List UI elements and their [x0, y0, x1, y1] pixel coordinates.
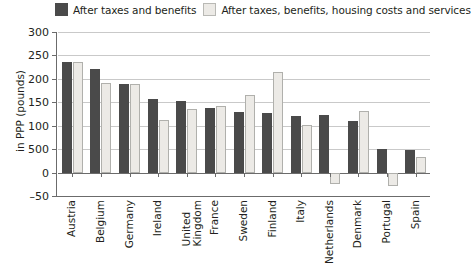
legend-label-2: After taxes, benefits, housing costs and…: [221, 4, 470, 16]
y-tick-label-0: 0: [42, 166, 49, 179]
bar-portugal-series-1: [377, 149, 387, 173]
x-axis-label-italy: Italy: [295, 200, 306, 223]
bar-austria-series-1: [62, 62, 72, 173]
x-axis-label-france: France: [209, 200, 220, 235]
gridline-300: [58, 32, 430, 33]
bar-sweden-series-1: [234, 112, 244, 172]
bar-sweden-series-2: [245, 95, 255, 172]
bar-ireland-series-1: [148, 99, 158, 173]
bar-belgium-series-2: [101, 83, 111, 173]
bar-belgium-series-1: [90, 69, 100, 172]
bar-italy-series-1: [291, 116, 301, 172]
y-tick-label-200: 200: [28, 72, 49, 85]
y-tick-label--50: –50: [30, 190, 50, 203]
bar-finland-series-2: [273, 72, 283, 173]
y-tick-mark--50: [52, 196, 57, 197]
x-axis-label-sweden: Sweden: [238, 200, 249, 242]
legend-item-after-taxes-benefits-housing: After taxes, benefits, housing costs and…: [203, 3, 470, 16]
y-tick-label-300: 300: [28, 26, 49, 39]
plot-area: 3002502001501005000–50: [58, 32, 430, 196]
bar-denmark-series-1: [348, 121, 358, 173]
x-axis-labels: AustriaBelgiumGermanyIrelandUnited Kingd…: [58, 200, 430, 273]
x-axis-label-united-kingdom: United Kingdom: [181, 200, 202, 246]
y-tick-mark-150: [52, 102, 57, 103]
y-tick-mark-300: [52, 32, 57, 33]
y-tick-label-250: 250: [28, 49, 49, 62]
x-axis-label-netherlands: Netherlands: [324, 200, 335, 264]
legend-swatch-dark-icon: [55, 3, 68, 16]
y-axis-title: in PPP (pounds): [14, 46, 26, 176]
y-tick-mark-200: [52, 79, 57, 80]
legend-swatch-light-icon: [203, 3, 216, 16]
x-axis-label-germany: Germany: [124, 200, 135, 248]
gridline-200: [58, 79, 430, 80]
x-tick-mark-10: [358, 173, 359, 177]
x-tick-mark-3: [158, 173, 159, 177]
y-tick-mark-0: [52, 173, 57, 174]
legend-label-1: After taxes and benefits: [73, 4, 196, 16]
x-tick-mark-4: [187, 173, 188, 177]
bar-portugal-series-2: [388, 173, 398, 186]
x-tick-mark-8: [301, 173, 302, 177]
x-tick-mark-1: [101, 173, 102, 177]
x-axis-label-belgium: Belgium: [95, 200, 106, 243]
y-tick-label-100: 100: [28, 119, 49, 132]
bar-netherlands-series-2: [330, 173, 340, 184]
y-tick-mark-100: [52, 126, 57, 127]
gridline-250: [58, 55, 430, 56]
x-axis-label-portugal: Portugal: [381, 200, 392, 244]
bar-germany-series-2: [130, 84, 140, 172]
bar-spain-series-2: [416, 157, 426, 173]
y-tick-mark-50: [52, 149, 57, 150]
bar-germany-series-1: [119, 84, 129, 172]
gridline--50: [56, 196, 430, 197]
bar-netherlands-series-1: [319, 115, 329, 173]
bar-finland-series-1: [262, 113, 272, 173]
x-axis-label-denmark: Denmark: [352, 200, 363, 248]
bar-ireland-series-2: [159, 120, 169, 172]
x-axis-label-austria: Austria: [66, 200, 77, 237]
y-tick-mark-250: [52, 55, 57, 56]
bar-france-series-2: [216, 106, 226, 173]
bar-united-kingdom-series-1: [176, 101, 186, 173]
x-tick-mark-2: [130, 173, 131, 177]
bar-france-series-1: [205, 108, 215, 173]
bar-spain-series-1: [405, 150, 415, 172]
bar-denmark-series-2: [359, 111, 369, 172]
bar-italy-series-2: [302, 125, 312, 172]
x-tick-mark-5: [215, 173, 216, 177]
x-tick-mark-7: [273, 173, 274, 177]
x-tick-mark-0: [72, 173, 73, 177]
x-tick-mark-12: [416, 173, 417, 177]
chart-legend: After taxes and benefits After taxes, be…: [55, 3, 471, 16]
legend-item-after-taxes-and-benefits: After taxes and benefits: [55, 3, 196, 16]
bar-austria-series-2: [73, 62, 83, 172]
y-axis-line: [56, 32, 57, 196]
x-tick-mark-11: [387, 173, 388, 177]
x-axis-label-spain: Spain: [410, 200, 421, 229]
x-tick-mark-6: [244, 173, 245, 177]
y-tick-label-150: 150: [28, 96, 49, 109]
x-axis-label-ireland: Ireland: [152, 200, 163, 236]
y-tick-label-50: 500: [28, 143, 49, 156]
x-tick-mark-9: [330, 173, 331, 177]
bar-united-kingdom-series-2: [187, 109, 197, 172]
x-axis-label-finland: Finland: [267, 200, 278, 238]
